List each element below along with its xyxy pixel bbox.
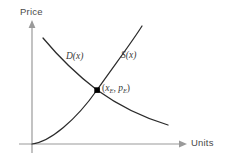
equilibrium-close-paren: ) (127, 83, 130, 93)
x-axis-arrowhead (179, 141, 187, 148)
equilibrium-x-subscript: E (109, 87, 113, 94)
equilibrium-point-label: (xE, pE) (102, 83, 130, 93)
demand-curve-label: D(x) (66, 51, 83, 61)
y-axis-label: Price (20, 6, 43, 17)
y-axis-arrowhead (29, 20, 36, 28)
equilibrium-p-subscript: E (123, 87, 127, 94)
supply-demand-figure: Price Units D(x) S(x) (xE, pE) (0, 0, 226, 161)
x-axis-label: Units (191, 137, 214, 148)
equilibrium-point-marker (94, 87, 100, 93)
supply-curve-label: S(x) (121, 50, 136, 60)
demand-curve (43, 38, 168, 125)
